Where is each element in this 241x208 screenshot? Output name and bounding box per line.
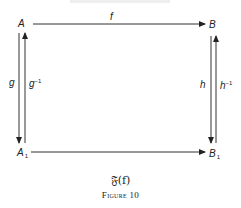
node-a1: A1 (17, 148, 28, 159)
node-a: A (18, 19, 25, 29)
label-g-inverse: g−1 (29, 78, 41, 89)
node-b: B (209, 20, 216, 30)
functor-caption: 𝔉(f) (0, 174, 241, 187)
node-b1: B1 (209, 149, 220, 160)
label-h: h (200, 80, 206, 90)
label-h-inverse: h−1 (220, 80, 232, 91)
label-f: f (110, 12, 113, 22)
label-g: g (9, 78, 15, 88)
figure-caption: Figure 10 (0, 190, 241, 200)
